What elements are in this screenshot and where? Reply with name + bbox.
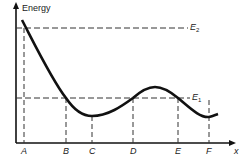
y-axis-arrow-icon <box>13 2 19 9</box>
point-label-b: B <box>63 147 69 156</box>
point-label-f: F <box>206 147 212 156</box>
level-label-e1: E1 <box>192 93 201 103</box>
energy-curve <box>22 20 218 117</box>
point-label-c: C <box>89 147 96 156</box>
point-label-d: D <box>130 147 137 156</box>
x-axis-label: x <box>234 147 239 156</box>
level-label-e2: E2 <box>190 23 199 33</box>
y-axis-label: Energy <box>22 4 51 13</box>
point-label-a: A <box>21 147 27 156</box>
point-label-e: E <box>175 147 181 156</box>
energy-diagram <box>0 0 242 161</box>
